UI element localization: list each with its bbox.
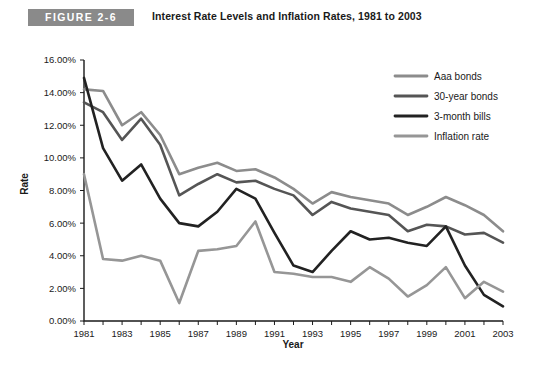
chart-legend: Aaa bonds30-year bonds3-month billsInfla… xyxy=(395,71,498,142)
y-tick-label: 4.00% xyxy=(49,250,76,261)
y-tick-label: 16.00% xyxy=(44,54,77,65)
y-axis-tick-group: 0.00%2.00%4.00%6.00%8.00%10.00%12.00%14.… xyxy=(44,54,84,326)
x-tick-label: 1987 xyxy=(188,328,209,339)
y-tick-label: 0.00% xyxy=(49,315,76,326)
x-tick-label: 2003 xyxy=(492,328,513,339)
x-axis-title: Year xyxy=(282,339,303,350)
x-tick-label: 1999 xyxy=(416,328,437,339)
x-tick-label: 1995 xyxy=(340,328,361,339)
x-tick-label: 1997 xyxy=(378,328,399,339)
series-line-inflation-rate xyxy=(84,174,503,303)
y-tick-label: 8.00% xyxy=(49,185,76,196)
y-tick-label: 2.00% xyxy=(49,283,76,294)
x-tick-label: 1983 xyxy=(112,328,133,339)
legend-label-1: 30-year bonds xyxy=(434,91,498,102)
y-axis-title: Rate xyxy=(19,173,30,195)
figure-number-badge: FIGURE 2-6 xyxy=(28,9,134,26)
legend-label-2: 3-month bills xyxy=(434,111,491,122)
figure-title: Interest Rate Levels and Inflation Rates… xyxy=(152,10,422,22)
legend-label-3: Inflation rate xyxy=(434,131,489,142)
y-tick-label: 6.00% xyxy=(49,218,76,229)
x-tick-label: 1989 xyxy=(226,328,247,339)
figure-header: FIGURE 2-6 Interest Rate Levels and Infl… xyxy=(0,0,541,36)
x-tick-label: 1985 xyxy=(150,328,171,339)
x-tick-label: 1991 xyxy=(264,328,285,339)
x-tick-label: 1993 xyxy=(302,328,323,339)
legend-label-0: Aaa bonds xyxy=(434,71,482,82)
x-tick-label: 2001 xyxy=(454,328,475,339)
chart-container: 0.00%2.00%4.00%6.00%8.00%10.00%12.00%14.… xyxy=(0,36,541,377)
interest-rate-line-chart: 0.00%2.00%4.00%6.00%8.00%10.00%12.00%14.… xyxy=(0,36,541,377)
x-tick-label: 1981 xyxy=(73,328,94,339)
x-axis-tick-group: 1981198319851987198919911993199519971999… xyxy=(73,321,513,339)
y-tick-label: 14.00% xyxy=(44,87,77,98)
y-tick-label: 12.00% xyxy=(44,120,77,131)
y-tick-label: 10.00% xyxy=(44,152,77,163)
